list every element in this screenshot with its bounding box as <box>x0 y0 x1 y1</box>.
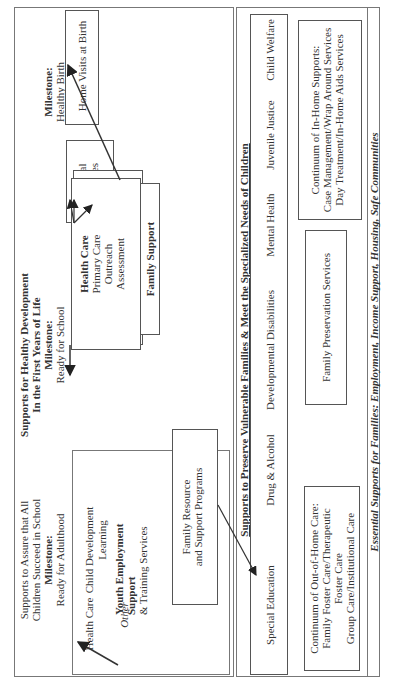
arrow-prenatal-to-healthy-birth <box>68 65 120 180</box>
arrow-family-resource-to-special-education <box>218 505 256 575</box>
arrow-other <box>78 642 118 665</box>
arrows-layer <box>0 0 402 685</box>
arrow-home-visits-fan <box>70 200 92 223</box>
service-continuum-diagram: Supports for Healthy Development In the … <box>0 0 402 685</box>
